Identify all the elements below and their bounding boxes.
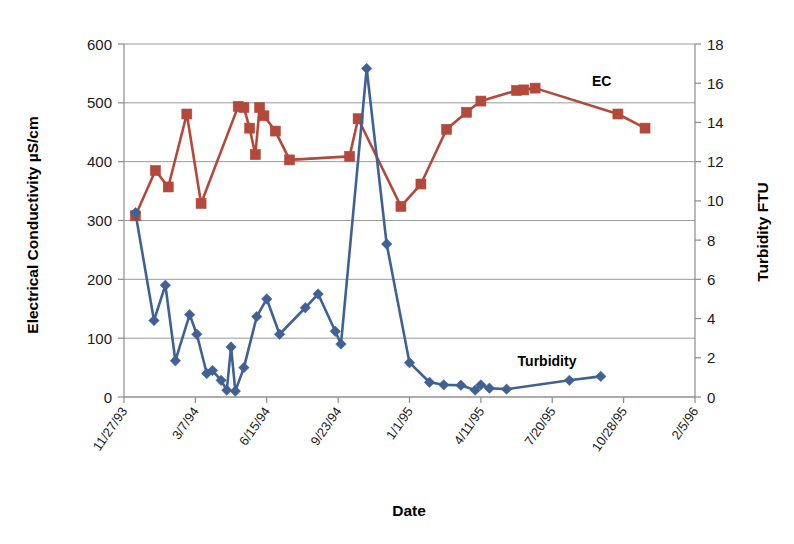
data-point-marker bbox=[285, 155, 295, 165]
data-point-marker bbox=[442, 124, 452, 134]
data-point-marker bbox=[250, 150, 260, 160]
data-point-marker bbox=[530, 83, 540, 93]
y-axis-left-tick-label: 600 bbox=[87, 36, 112, 53]
data-point-marker bbox=[239, 103, 249, 113]
y-axis-right-tick-label: 12 bbox=[707, 153, 724, 170]
data-point-marker bbox=[396, 201, 406, 211]
y-axis-right-tick-label: 8 bbox=[707, 232, 715, 249]
data-point-marker bbox=[182, 109, 192, 119]
y-axis-left-tick-label: 400 bbox=[87, 153, 112, 170]
y-axis-right-tick-label: 4 bbox=[707, 310, 715, 327]
data-point-marker bbox=[613, 109, 623, 119]
data-point-marker bbox=[476, 96, 486, 106]
data-point-marker bbox=[163, 182, 173, 192]
data-point-marker bbox=[640, 123, 650, 133]
dual-axis-line-chart: 0100200300400500600 024681012141618 11/2… bbox=[0, 0, 794, 544]
data-point-marker bbox=[259, 111, 269, 121]
x-axis-title: Date bbox=[392, 502, 426, 519]
turbidity-series-label: Turbidity bbox=[518, 353, 577, 369]
y-axis-left-tick-label: 500 bbox=[87, 94, 112, 111]
data-point-marker bbox=[270, 126, 280, 136]
data-point-marker bbox=[196, 198, 206, 208]
data-point-marker bbox=[245, 123, 255, 133]
data-point-marker bbox=[345, 151, 355, 161]
data-point-marker bbox=[462, 107, 472, 117]
y-axis-right-tick-label: 0 bbox=[707, 389, 715, 406]
chart-container: 0100200300400500600 024681012141618 11/2… bbox=[0, 0, 794, 544]
data-point-marker bbox=[416, 179, 426, 189]
y-axis-right-tick-label: 18 bbox=[707, 36, 724, 53]
ec-series-label: EC bbox=[592, 73, 611, 89]
y-axis-right-tick-label: 2 bbox=[707, 349, 715, 366]
y-axis-left-tick-label: 0 bbox=[104, 389, 112, 406]
y-axis-right-tick-label: 14 bbox=[707, 114, 724, 131]
chart-background bbox=[0, 0, 794, 544]
y-axis-left-tick-label: 300 bbox=[87, 212, 112, 229]
y-axis-right-tick-label: 6 bbox=[707, 271, 715, 288]
data-point-marker bbox=[150, 165, 160, 175]
data-point-marker bbox=[519, 85, 529, 95]
y-axis-left-tick-label: 100 bbox=[87, 330, 112, 347]
y-axis-right-title: Turbidity FTU bbox=[754, 182, 771, 282]
y-axis-left-tick-label: 200 bbox=[87, 271, 112, 288]
y-axis-right-tick-label: 10 bbox=[707, 192, 724, 209]
y-axis-left-title: Electrical Conductivity µS/cm bbox=[24, 116, 41, 333]
y-axis-right-tick-label: 16 bbox=[707, 75, 724, 92]
